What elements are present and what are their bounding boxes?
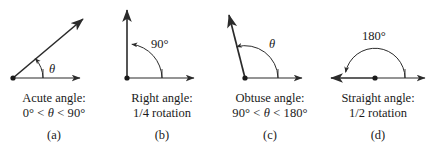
- straight-angle-diagram: 180°: [324, 0, 432, 90]
- panel-letter-d: (d): [324, 128, 432, 143]
- right-angle-label: 90°: [151, 37, 169, 51]
- obtuse-vertex-dot: [242, 75, 247, 80]
- acute-theta-label: θ: [49, 62, 55, 76]
- acute-vertex-dot: [10, 75, 15, 80]
- acute-slanted-ray: [13, 19, 83, 78]
- obtuse-angle-diagram: θ: [216, 0, 324, 90]
- acute-caption-line1: Acute angle:: [0, 91, 108, 106]
- panel-letter-c: (c): [216, 128, 324, 143]
- obtuse-caption-line2: 90° < θ < 180°: [216, 106, 324, 121]
- obtuse-caption-line1: Obtuse angle:: [216, 91, 324, 106]
- obtuse-range-post: < 180°: [270, 106, 308, 120]
- acute-caption: Acute angle: 0° < θ < 90°: [0, 91, 108, 121]
- right-caption-line1: Right angle:: [108, 91, 216, 106]
- acute-angle-diagram: θ: [0, 0, 108, 90]
- straight-vertex-dot: [372, 75, 377, 80]
- angle-types-figure: θ Acute angle: 0° < θ < 90° (a): [0, 0, 432, 156]
- panel-right-angle: 90° Right angle: 1/4 rotation (b): [108, 0, 216, 156]
- right-caption: Right angle: 1/4 rotation: [108, 91, 216, 121]
- straight-angle-label: 180°: [362, 29, 386, 43]
- straight-angle-arc: [346, 48, 405, 78]
- acute-range-post: < 90°: [54, 106, 85, 120]
- obtuse-theta-label: θ: [269, 37, 275, 51]
- panel-obtuse-angle: θ Obtuse angle: 90° < θ < 180° (c): [216, 0, 324, 156]
- obtuse-caption: Obtuse angle: 90° < θ < 180°: [216, 91, 324, 121]
- right-vertex-dot: [124, 75, 129, 80]
- straight-caption: Straight angle: 1/2 rotation: [324, 91, 432, 121]
- panel-acute-angle: θ Acute angle: 0° < θ < 90° (a): [0, 0, 108, 156]
- acute-caption-line2: 0° < θ < 90°: [0, 106, 108, 121]
- panel-letter-a: (a): [0, 128, 108, 143]
- straight-caption-line2: 1/2 rotation: [324, 106, 432, 121]
- right-angle-diagram: 90°: [108, 0, 216, 90]
- panel-straight-angle: 180° Straight angle: 1/2 rotation (d): [324, 0, 432, 156]
- acute-range-pre: 0° <: [23, 106, 48, 120]
- acute-angle-arc: [35, 59, 43, 79]
- right-caption-line2: 1/4 rotation: [108, 106, 216, 121]
- obtuse-range-pre: 90° <: [232, 106, 263, 120]
- straight-caption-line1: Straight angle:: [324, 91, 432, 106]
- panel-letter-b: (b): [108, 128, 216, 143]
